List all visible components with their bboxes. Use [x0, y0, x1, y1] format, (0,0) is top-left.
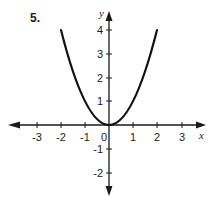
y-axis — [106, 11, 113, 196]
y-tick-label: 4 — [97, 24, 103, 36]
x-tick-label: 2 — [154, 131, 160, 143]
y-tick-label: 2 — [97, 72, 103, 84]
x-tick-label: 3 — [179, 131, 185, 143]
y-axis-label: y — [98, 7, 104, 19]
x-axis-label: x — [198, 129, 204, 141]
y-tick-label: 3 — [97, 48, 103, 60]
y-tick-label: -1 — [93, 143, 103, 155]
x-axis-left-arrow-icon — [8, 122, 20, 129]
x-tick-label: -3 — [32, 131, 42, 143]
graph-canvas: 5. -3 -2 -1 0 1 2 3 4 — [0, 0, 218, 200]
y-axis-up-arrow-icon — [106, 11, 113, 21]
y-tick-labels: 4 3 2 1 -1 -2 — [93, 24, 103, 179]
x-axis-right-arrow-icon — [196, 122, 206, 129]
x-tick-label: -2 — [56, 131, 66, 143]
origin-label: 0 — [101, 131, 107, 143]
y-tick-label: 1 — [97, 95, 103, 107]
problem-number: 5. — [30, 11, 40, 25]
y-tick-label: -2 — [93, 167, 103, 179]
y-axis-down-arrow-icon — [106, 186, 113, 196]
x-tick-label: 1 — [130, 131, 136, 143]
x-tick-label: -1 — [80, 131, 90, 143]
